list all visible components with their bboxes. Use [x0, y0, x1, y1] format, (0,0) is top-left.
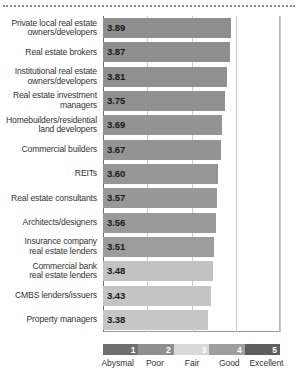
- legend-segment-2: 2: [138, 344, 173, 355]
- bar-value-label: 3.57: [107, 194, 125, 204]
- plot-area: 3.893.873.813.753.693.673.603.573.563.51…: [103, 16, 280, 332]
- bar-row: 3.43: [103, 286, 280, 306]
- bar-row: 3.81: [103, 67, 280, 87]
- legend-label-poor: Poor: [136, 358, 173, 370]
- bar-value-label: 3.75: [107, 96, 125, 106]
- bar-row: 3.38: [103, 310, 280, 330]
- bar-value-label: 3.56: [107, 218, 125, 228]
- category-label: Real estate investmentmanagers: [0, 91, 97, 110]
- legend-label-abysmal: Abysmal: [99, 358, 136, 370]
- category-label: Commercial builders: [0, 145, 97, 155]
- bar-value-label: 3.60: [107, 169, 125, 179]
- legend-segment-4: 4: [209, 344, 244, 355]
- legend-label-good: Good: [211, 358, 248, 370]
- legend-segment-5: 5: [245, 344, 280, 355]
- legend-tick-number: 2: [166, 345, 171, 354]
- category-axis-labels: Private local real estateowners/develope…: [0, 16, 100, 332]
- category-label: Private local real estateowners/develope…: [0, 19, 97, 38]
- bar-row: 3.87: [103, 42, 280, 62]
- category-label: Property managers: [0, 315, 97, 325]
- bar-value-label: 3.38: [107, 315, 125, 325]
- legend-label-fair: Fair: [173, 358, 210, 370]
- bar-row: 3.51: [103, 237, 280, 257]
- legend-tick-number: 4: [237, 345, 242, 354]
- legend-segment-1: 1: [103, 344, 138, 355]
- legend-label-excellent: Excellent: [248, 358, 285, 370]
- bar-row: 3.75: [103, 91, 280, 111]
- bar-row: 3.67: [103, 140, 280, 160]
- bar-row: 3.89: [103, 18, 280, 38]
- bar-value-label: 3.81: [107, 72, 125, 82]
- bar-row: 3.69: [103, 115, 280, 135]
- category-label: REITs: [0, 169, 97, 179]
- legend-tick-number: 5: [272, 345, 277, 354]
- scale-legend-bar: 12345: [103, 344, 280, 355]
- bar-row: 3.48: [103, 261, 280, 281]
- category-label: Institutional real estateowners/develope…: [0, 67, 97, 86]
- bar-value-label: 3.48: [107, 266, 125, 276]
- bar-row: 3.60: [103, 164, 280, 184]
- bar-row: 3.57: [103, 188, 280, 208]
- category-label: Homebuilders/residentialland developers: [0, 116, 97, 135]
- bar-row: 3.56: [103, 213, 280, 233]
- gridline-5: [280, 16, 281, 332]
- category-label: Commercial bankreal estate lenders: [0, 262, 97, 281]
- bar-value-label: 3.69: [107, 121, 125, 131]
- legend-segment-3: 3: [174, 344, 209, 355]
- category-label: Real estate consultants: [0, 194, 97, 204]
- top-dotted-divider: [3, 5, 295, 7]
- bar-value-label: 3.67: [107, 145, 125, 155]
- bar-value-label: 3.87: [107, 48, 125, 58]
- chart-container: Private local real estateowners/develope…: [0, 0, 298, 372]
- category-label: Insurance companyreal estate lenders: [0, 237, 97, 256]
- bar-value-label: 3.51: [107, 242, 125, 252]
- category-label: CMBS lenders/issuers: [0, 291, 97, 301]
- scale-legend-labels: AbysmalPoorFairGoodExcellent: [99, 358, 285, 370]
- bar-value-label: 3.43: [107, 291, 125, 301]
- category-label: Architects/designers: [0, 218, 97, 228]
- bar-value-label: 3.89: [107, 23, 125, 33]
- category-label: Real estate brokers: [0, 48, 97, 58]
- legend-tick-number: 1: [131, 345, 136, 354]
- legend-tick-number: 3: [201, 345, 206, 354]
- bar-series: 3.893.873.813.753.693.673.603.573.563.51…: [103, 16, 280, 332]
